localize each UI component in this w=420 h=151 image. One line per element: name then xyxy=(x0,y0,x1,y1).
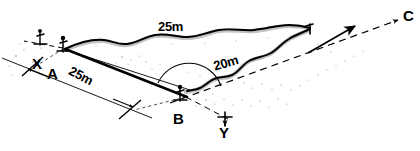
direction-arrow-c xyxy=(308,26,355,53)
label-point-x: X xyxy=(32,56,42,71)
riverbank-shadow-group xyxy=(65,26,309,92)
survey-marker-x-icon xyxy=(34,29,47,45)
diagram-svg xyxy=(0,0,420,151)
sightline-b-c-dashed xyxy=(170,20,398,103)
diagram-canvas: X A B Y C 25m 25m 20m xyxy=(0,0,420,151)
label-point-b: B xyxy=(173,111,184,126)
label-point-c: C xyxy=(403,8,414,23)
dimension-label-upper-reach: 25m xyxy=(158,20,183,33)
label-point-a: A xyxy=(47,66,58,81)
label-point-y: Y xyxy=(219,125,229,140)
riverbank-group xyxy=(65,25,310,91)
dimension-ext-b xyxy=(134,97,186,110)
offset-line-b-y xyxy=(186,97,228,119)
dimension-arrow-b xyxy=(113,99,133,107)
